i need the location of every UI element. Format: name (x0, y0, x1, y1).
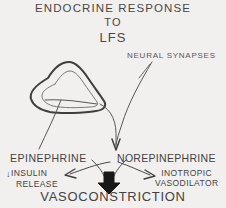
arrow-synapses-to-norepinephrine (116, 62, 152, 145)
adrenal-gland-inner-icon (42, 71, 98, 108)
vasodilator-line: VASODILATOR (155, 178, 218, 188)
arrow-gland-to-epinephrine (39, 100, 61, 149)
endocrine-response-diagram: ENDOCRINE RESPONSE TO LFS NEURAL SYNAPSE… (0, 0, 226, 208)
label-vasoconstriction: VASOCONSTRICTION (0, 190, 226, 204)
label-epinephrine: EPINEPHRINE (10, 153, 87, 164)
converge-left-stroke (92, 160, 104, 176)
inotropic-line: INOTROPIC (155, 168, 218, 178)
label-insulin-release: ↓INSULINRELEASE (6, 168, 58, 189)
label-inotropic-vasodilator: INOTROPICVASODILATOR (155, 168, 218, 188)
title-line-2: TO (0, 15, 226, 30)
title-line-1: ENDOCRINE RESPONSE (0, 1, 226, 15)
arrow-gland-to-norepinephrine (100, 104, 116, 148)
adrenal-gland-detail-icon (45, 100, 97, 104)
title-line-3: LFS (0, 30, 226, 46)
insulin-release-line-2: RELEASE (6, 179, 58, 189)
label-norepinephrine: NOREPINEPHRINE (117, 153, 216, 164)
adrenal-gland-outline-icon (31, 62, 105, 113)
neural-synapses-leader-line (139, 64, 150, 78)
insulin-release-line-1: INSULIN (11, 168, 47, 178)
figure-title: ENDOCRINE RESPONSE TO LFS (0, 1, 226, 46)
label-neural-synapses: NEURAL SYNAPSES (127, 52, 216, 61)
